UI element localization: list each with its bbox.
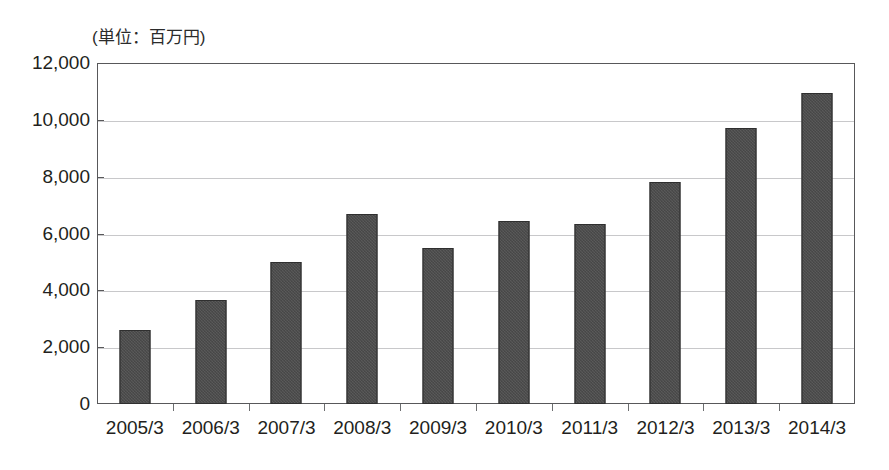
y-tick-label: 2,000 <box>4 337 90 356</box>
x-tick-label: 2005/3 <box>106 417 164 439</box>
x-tick-mark <box>173 404 174 411</box>
x-tick-mark <box>400 404 401 411</box>
x-tick-label: 2014/3 <box>788 417 846 439</box>
x-tick-mark <box>628 404 629 411</box>
y-tick-mark <box>97 347 104 348</box>
x-axis: 2005/32006/32007/32008/32009/32010/32011… <box>97 404 855 464</box>
bar-slot <box>249 63 325 404</box>
x-tick-mark <box>324 404 325 411</box>
unit-caption: (単位：百万円) <box>92 27 205 49</box>
bar <box>271 262 302 404</box>
x-tick-label: 2013/3 <box>712 417 770 439</box>
bars-layer <box>97 63 855 404</box>
x-tick-mark <box>476 404 477 411</box>
bar <box>726 128 757 404</box>
bar-slot <box>324 63 400 404</box>
bar-slot <box>779 63 855 404</box>
x-tick-label: 2007/3 <box>257 417 315 439</box>
bar-slot <box>173 63 249 404</box>
y-tick-label: 0 <box>4 394 90 413</box>
bar <box>423 248 454 404</box>
bar <box>498 221 529 404</box>
x-tick-label: 2010/3 <box>485 417 543 439</box>
bar-slot <box>628 63 704 404</box>
bar <box>195 300 226 404</box>
bar-chart: (単位：百万円) 12,00010,0008,0006,0004,0002,00… <box>0 0 889 470</box>
bar-slot <box>97 63 173 404</box>
y-tick-label: 12,000 <box>4 53 90 72</box>
x-tick-label: 2006/3 <box>182 417 240 439</box>
x-tick-mark <box>249 404 250 411</box>
y-axis: 12,00010,0008,0006,0004,0002,0000 <box>0 63 90 404</box>
bar <box>574 224 605 404</box>
bar-slot <box>400 63 476 404</box>
bar-slot <box>476 63 552 404</box>
x-tick-label: 2009/3 <box>409 417 467 439</box>
x-tick-mark <box>779 404 780 411</box>
bar-slot <box>703 63 779 404</box>
bar <box>650 182 681 404</box>
bar <box>347 214 378 404</box>
x-tick-label: 2012/3 <box>636 417 694 439</box>
y-tick-mark <box>97 177 104 178</box>
x-tick-mark <box>703 404 704 411</box>
bar <box>802 93 833 404</box>
y-tick-mark <box>97 234 104 235</box>
y-tick-mark <box>97 120 104 121</box>
y-tick-label: 4,000 <box>4 280 90 299</box>
y-tick-label: 10,000 <box>4 110 90 129</box>
y-tick-label: 6,000 <box>4 224 90 243</box>
x-tick-mark <box>552 404 553 411</box>
bar-slot <box>552 63 628 404</box>
x-tick-label: 2008/3 <box>333 417 391 439</box>
bar <box>119 330 150 404</box>
y-tick-mark <box>97 290 104 291</box>
y-tick-label: 8,000 <box>4 167 90 186</box>
x-tick-label: 2011/3 <box>561 417 618 439</box>
